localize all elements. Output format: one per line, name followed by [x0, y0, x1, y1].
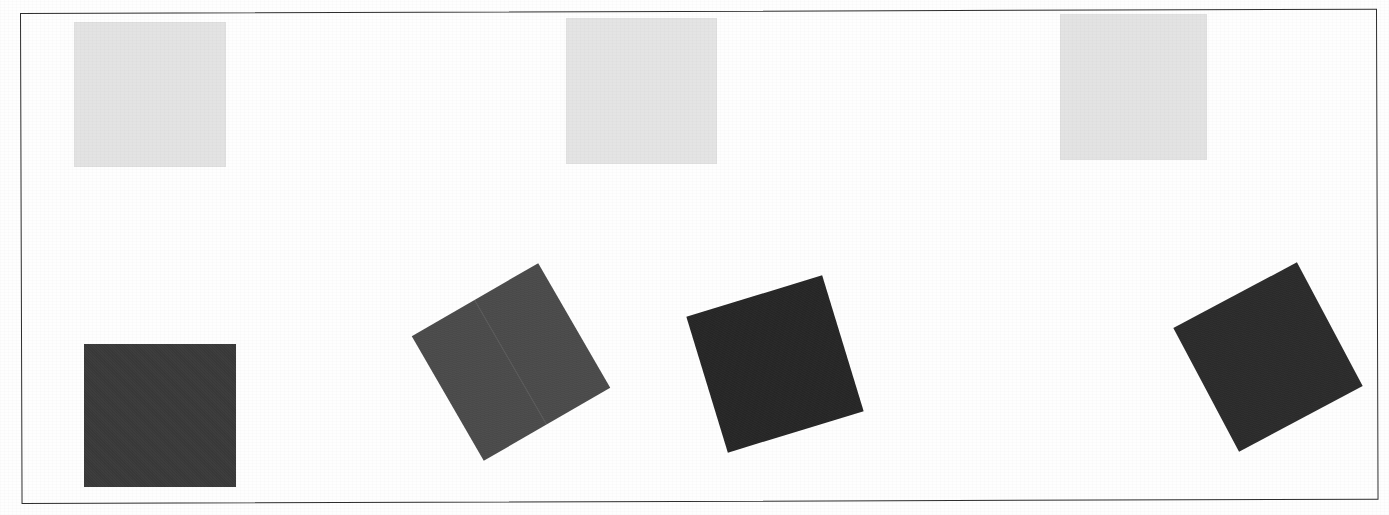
dark-square-2-seam	[474, 300, 547, 425]
figure-page	[0, 0, 1389, 515]
light-square-3-fill	[1060, 14, 1207, 160]
light-square-3	[1060, 14, 1207, 160]
light-square-2-fill	[566, 18, 717, 164]
light-square-1-fill	[74, 22, 226, 167]
dark-square-1-fill	[84, 344, 236, 487]
light-square-1	[74, 22, 226, 167]
dark-square-1	[84, 344, 236, 487]
light-square-2	[566, 18, 717, 164]
